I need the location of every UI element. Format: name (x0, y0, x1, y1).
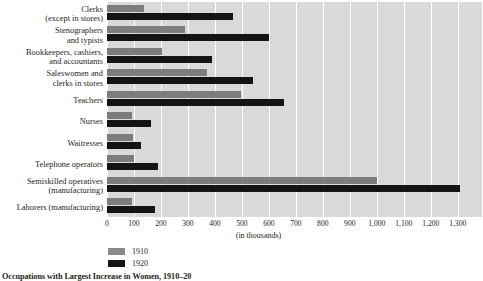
category-label-line: clerks in stores (0, 79, 103, 88)
category-label: Waitresses (0, 139, 103, 148)
category-label-line: Bookkeepers, cashiers, (0, 48, 103, 57)
category-label: Bookkeepers, cashiers,and accountants (0, 48, 103, 67)
category-label-line: Telephone operators (0, 160, 103, 169)
bar-1910 (107, 155, 134, 162)
plot-area (107, 2, 482, 217)
category-axis-labels: Clerks(except in stores)Stenographersand… (0, 2, 103, 217)
category-label: Semiskilled operatives(manufacturing) (0, 177, 103, 196)
x-tick-label: 1,000 (368, 219, 385, 228)
bar-1920 (107, 77, 253, 84)
bar-1920 (107, 163, 158, 170)
bar-1920 (107, 56, 212, 63)
x-axis-title-text: (in thousands) (236, 231, 282, 240)
category-label-line: Teachers (0, 96, 103, 105)
bar-1920 (107, 120, 151, 127)
bar-group (107, 112, 482, 134)
bar-group (107, 177, 482, 199)
bar-rows (107, 2, 482, 217)
x-tick-label: 300 (182, 219, 193, 228)
bar-chart: Clerks(except in stores)Stenographersand… (0, 0, 483, 281)
bar-1920 (107, 185, 460, 192)
x-tick-label: 400 (209, 219, 220, 228)
category-label-line: (except in stores) (0, 14, 103, 23)
category-label: Saleswomen andclerks in stores (0, 69, 103, 88)
category-label-line: Stenographers (0, 26, 103, 35)
category-label-line: Semiskilled operatives (0, 177, 103, 186)
bar-group (107, 69, 482, 91)
x-tick-label: 800 (317, 219, 328, 228)
x-tick-label: 700 (290, 219, 301, 228)
legend-item-1910: 1910 (108, 245, 148, 257)
bar-1920 (107, 13, 233, 20)
bar-group (107, 134, 482, 156)
bar-1910 (107, 5, 144, 12)
category-label-line: Saleswomen and (0, 69, 103, 78)
bar-1920 (107, 142, 141, 149)
category-label: Stenographersand typists (0, 26, 103, 45)
category-label: Laborers (manufacturing) (0, 203, 103, 212)
legend-label-1920: 1920 (132, 259, 148, 268)
bar-group (107, 48, 482, 70)
category-label: Nurses (0, 117, 103, 126)
bar-group (107, 26, 482, 48)
bar-1910 (107, 198, 132, 205)
category-label-line: and typists (0, 36, 103, 45)
bar-group (107, 5, 482, 27)
x-tick-label: 900 (344, 219, 355, 228)
legend-swatch-1910-icon (108, 248, 125, 255)
legend-swatch-1920-icon (108, 260, 125, 267)
x-tick-label: 500 (236, 219, 247, 228)
legend: 1910 1920 (108, 245, 148, 269)
chart-caption: Occupations with Largest Increase in Wom… (2, 272, 191, 281)
bar-1920 (107, 34, 269, 41)
x-axis-ticks: 01002003004005006007008009001,0001,1001,… (107, 219, 483, 231)
x-tick-label: 600 (263, 219, 274, 228)
bar-1910 (107, 69, 207, 76)
category-label: Teachers (0, 96, 103, 105)
x-tick-label: 200 (155, 219, 166, 228)
bar-group (107, 198, 482, 220)
legend-label-1910: 1910 (132, 247, 148, 256)
category-label: Telephone operators (0, 160, 103, 169)
bar-group (107, 155, 482, 177)
x-tick-label: 1,100 (395, 219, 412, 228)
category-label-line: Clerks (0, 5, 103, 14)
category-label-line: (manufacturing) (0, 186, 103, 195)
legend-item-1920: 1920 (108, 257, 148, 269)
x-tick-label: 0 (105, 219, 109, 228)
bar-1920 (107, 206, 155, 213)
x-axis-title: (in thousands) (0, 231, 483, 240)
bar-1910 (107, 112, 132, 119)
category-label: Clerks(except in stores) (0, 5, 103, 24)
category-label-line: and accountants (0, 57, 103, 66)
bar-1910 (107, 177, 377, 184)
bar-1910 (107, 26, 185, 33)
x-tick-label: 1,200 (422, 219, 439, 228)
bar-1910 (107, 91, 241, 98)
bar-1920 (107, 99, 284, 106)
category-label-line: Waitresses (0, 139, 103, 148)
category-label-line: Laborers (manufacturing) (0, 203, 103, 212)
x-tick-label: 1,300 (449, 219, 466, 228)
category-label-line: Nurses (0, 117, 103, 126)
bar-group (107, 91, 482, 113)
x-tick-label: 100 (128, 219, 139, 228)
bar-1910 (107, 48, 162, 55)
bar-1910 (107, 134, 133, 141)
